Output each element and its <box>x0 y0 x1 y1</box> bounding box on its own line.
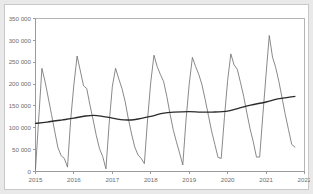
x-tick-label: 2018 <box>144 176 158 183</box>
monthly-series-line <box>36 36 295 170</box>
y-tick-label: 100 000 <box>9 124 32 131</box>
x-tick-label: 2022 <box>298 176 310 183</box>
trend-series-line <box>36 96 295 123</box>
y-tick-label: 0 <box>28 168 32 175</box>
time-series-chart: 050 000100 000150 000200 000250 000300 0… <box>5 5 310 191</box>
y-tick-label: 200 000 <box>9 80 32 87</box>
x-tick-label: 2016 <box>67 176 81 183</box>
x-tick-label: 2019 <box>182 176 196 183</box>
x-tick-label: 2017 <box>105 176 119 183</box>
x-tick-label: 2021 <box>259 176 273 183</box>
y-tick-label: 350 000 <box>9 15 32 22</box>
y-tick-label: 150 000 <box>9 102 32 109</box>
y-tick-label: 300 000 <box>9 37 32 44</box>
chart-plot-area: 050 000100 000150 000200 000250 000300 0… <box>5 5 310 191</box>
x-axis-tick-labels: 20152016201720182019202020212022 <box>29 176 310 183</box>
y-tick-label: 250 000 <box>9 58 32 65</box>
x-tick-label: 2020 <box>221 176 235 183</box>
y-tick-label: 50 000 <box>12 146 31 153</box>
x-tick-label: 2015 <box>29 176 43 183</box>
chart-card: 050 000100 000150 000200 000250 000300 0… <box>4 4 309 190</box>
y-axis-tick-labels: 050 000100 000150 000200 000250 000300 0… <box>9 15 32 175</box>
